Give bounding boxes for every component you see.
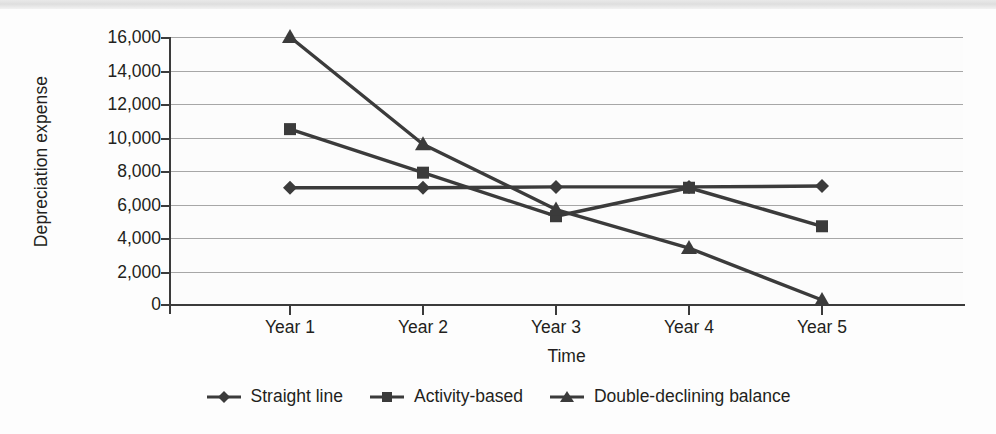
y-tick-mark [161,238,170,240]
x-tick-mark [688,306,690,315]
plot-area [170,37,963,305]
y-tick-label: 0 [11,294,161,315]
triangle-marker-icon [549,389,585,405]
y-tick-label: 6,000 [11,195,161,216]
gridline [170,238,963,239]
chart-legend: Straight line Activity-based Double-decl… [0,386,996,407]
y-tick-label: 16,000 [11,27,161,48]
legend-item-double-declining-balance[interactable]: Double-declining balance [549,386,791,407]
x-tick-mark [422,306,424,315]
x-tick-mark [821,306,823,315]
y-tick-label: 8,000 [11,161,161,182]
y-tick-label: 10,000 [11,128,161,149]
diamond-marker-icon [206,389,242,405]
gridline [170,37,963,38]
square-marker-icon [369,389,405,405]
x-tick-label-year-5: Year 5 [762,317,882,338]
legend-label: Activity-based [414,386,523,407]
y-tick-mark [161,205,170,207]
y-tick-mark [161,138,170,140]
x-tick-label-year-2: Year 2 [363,317,483,338]
x-tick-mark [555,306,557,315]
gridline [170,71,963,72]
gridline [170,171,963,172]
x-tick-label-year-3: Year 3 [496,317,616,338]
legend-label: Double-declining balance [594,386,791,407]
gridline [170,272,963,273]
y-tick-mark [161,171,170,173]
y-tick-mark [161,272,170,274]
x-tick-label-year-1: Year 1 [230,317,350,338]
y-tick-mark [161,104,170,106]
gridline [170,138,963,139]
y-tick-mark [161,304,170,306]
gridline [170,205,963,206]
legend-label: Straight line [251,386,343,407]
gridline [170,104,963,105]
y-tick-label: 4,000 [11,228,161,249]
x-tick-mark [289,306,291,315]
legend-item-straight-line[interactable]: Straight line [206,386,343,407]
scan-top-band [0,0,996,9]
y-tick-label: 14,000 [11,61,161,82]
x-axis-title: Time [170,346,963,367]
legend-item-activity-based[interactable]: Activity-based [369,386,523,407]
y-tick-mark [161,71,170,73]
y-tick-mark [161,37,170,39]
y-tick-label: 12,000 [11,94,161,115]
x-tick-label-year-4: Year 4 [629,317,749,338]
y-tick-label: 2,000 [11,262,161,283]
depreciation-expense-line-chart: Depreciation expense 16,000 14,000 12,00… [0,9,996,434]
